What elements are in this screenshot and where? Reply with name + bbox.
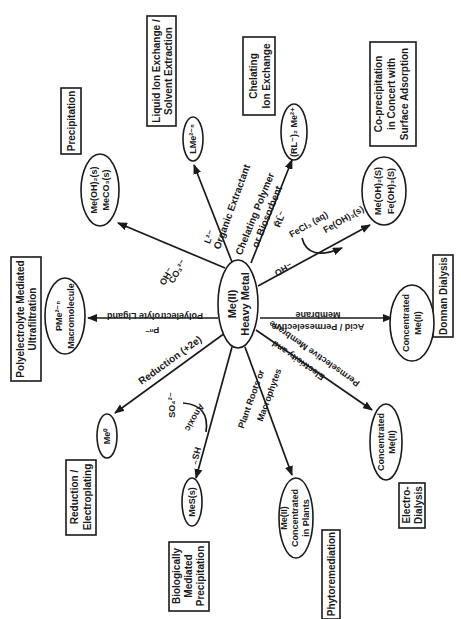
product-label: Me(OH)₂(S) <box>373 167 383 215</box>
process-label: Chelating <box>248 53 259 99</box>
branch-biological-precipitation: Biologically Mediated Precipitation MeS(… <box>167 392 209 611</box>
process-label: Donnan Dialysis <box>438 257 449 335</box>
path-label: Membrane <box>295 310 340 320</box>
process-label: Ion Exchange <box>261 43 272 108</box>
product-label: Concentrated <box>290 489 300 547</box>
arrow-co-precipitation <box>258 225 370 286</box>
process-label: in Concert with <box>386 58 397 130</box>
process-label: Electro- <box>401 486 412 523</box>
process-label: Ultrafiltration <box>27 288 38 351</box>
reagent-label: Pⁿ⁻ <box>145 325 160 335</box>
product-label: Me(OH)₂(s) <box>89 167 99 214</box>
center-node: Me(II) Heavy Metal <box>218 260 258 348</box>
process-label: Solvent Extraction <box>163 27 174 115</box>
product-label: Macromolecule <box>66 283 76 349</box>
process-label: Phytoremediation <box>326 532 337 616</box>
process-label: Precipitation <box>66 91 77 152</box>
process-label: Electroplating <box>82 464 93 531</box>
branch-liquid-ion-exchange: Liquid Ion Exchange / Solvent Extraction… <box>147 16 252 251</box>
product-label: MeS(s) <box>187 487 197 517</box>
branch-phytoremediation: Phytoremediation Me(II) Concentrated in … <box>236 367 340 619</box>
heavy-metal-removal-diagram: Me(II) Heavy Metal Precipitation Me(OH)₂… <box>0 0 461 619</box>
product-label: Concentrated <box>376 413 386 471</box>
product-label: Concentrated <box>401 294 411 352</box>
product-label: Me(II) <box>279 506 289 530</box>
process-label: Mediated <box>183 554 194 597</box>
product-label: Me⁰ <box>102 428 112 445</box>
process-label: Liquid Ion Exchange / <box>151 19 162 123</box>
product-label: Me(II) <box>387 430 397 454</box>
side-reagent-label: SO₄²⁻ <box>167 392 177 417</box>
reagent-label: OH⁻ <box>273 260 294 278</box>
product-label: (RL⁻)₂ Me²⁺ <box>289 107 299 157</box>
process-label: Co-precipitation <box>373 56 384 133</box>
product-label: Fe(OH)₃(S) <box>386 168 396 214</box>
process-label: Polyelectrolyte Mediated <box>15 260 26 377</box>
process-label: Surface Adsorption <box>399 48 410 140</box>
process-label: Biologically <box>171 548 182 605</box>
product-label: Me(II) <box>413 311 423 335</box>
product-label: in Plants <box>301 499 311 537</box>
reagent-label: R̄L̄⁻ <box>272 209 288 229</box>
process-label: Precipitation <box>195 546 206 607</box>
center-line1: Me(II) <box>226 289 238 318</box>
path-label: Reduction (+2e) <box>136 334 203 387</box>
process-label: Reduction / <box>69 470 80 525</box>
product-label: PMe²⁻ⁿ <box>54 301 64 332</box>
center-line2: Heavy Metal <box>239 272 251 336</box>
branch-chelating-ion-exchange: Chelating Ion Exchange (RL⁻)₂ Me²⁺ Chela… <box>233 37 307 256</box>
side-label: Anoxic <box>183 402 207 433</box>
path-label: Polyelectrolyte Ligand <box>107 311 203 321</box>
product-label: MeCO₃(s) <box>101 169 111 210</box>
product-label: LMe²⁻ⁿ <box>188 124 198 154</box>
process-label: Dialysis <box>413 486 424 524</box>
